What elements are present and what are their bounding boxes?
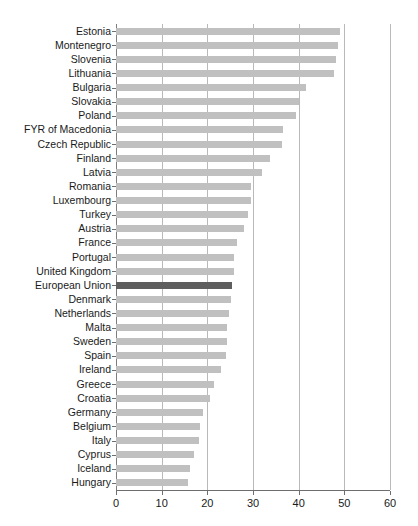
bar-row <box>116 310 390 317</box>
bar-row <box>116 84 390 91</box>
y-axis-label: Slovenia <box>0 54 111 65</box>
gridline-60 <box>390 24 391 490</box>
bar-latvia <box>116 169 262 176</box>
y-axis-tick <box>112 412 116 413</box>
y-axis-tick <box>112 455 116 456</box>
y-axis-tick <box>112 201 116 202</box>
y-axis-label: France <box>0 237 111 248</box>
bar-row <box>116 282 390 289</box>
bar-row <box>116 423 390 430</box>
y-axis-label: Poland <box>0 110 111 121</box>
bar-czech-republic <box>116 141 282 148</box>
bar-row <box>116 211 390 218</box>
y-axis-label: Bulgaria <box>0 82 111 93</box>
bar-ireland <box>116 366 221 373</box>
y-axis-label: Latvia <box>0 167 111 178</box>
y-axis-tick <box>112 426 116 427</box>
bar-row <box>116 254 390 261</box>
bar-denmark <box>116 296 231 303</box>
bar-montenegro <box>116 42 338 49</box>
bar-turkey <box>116 211 248 218</box>
bar-malta <box>116 324 227 331</box>
bar-estonia <box>116 28 340 35</box>
y-axis-tick <box>112 257 116 258</box>
bar-italy <box>116 437 199 444</box>
bar-netherlands <box>116 310 229 317</box>
y-axis-label: Cyprus <box>0 449 111 460</box>
y-axis-label: Spain <box>0 350 111 361</box>
bar-row <box>116 98 390 105</box>
bar-row <box>116 126 390 133</box>
bar-row <box>116 70 390 77</box>
y-axis-label: Austria <box>0 223 111 234</box>
bar-chart: EstoniaMontenegroSloveniaLithuaniaBulgar… <box>0 0 418 526</box>
bar-row <box>116 28 390 35</box>
bar-row <box>116 437 390 444</box>
y-axis-labels: EstoniaMontenegroSloveniaLithuaniaBulgar… <box>0 24 111 490</box>
bar-row <box>116 183 390 190</box>
y-axis-label: Montenegro <box>0 40 111 51</box>
y-axis-tick <box>112 313 116 314</box>
y-axis-tick <box>112 328 116 329</box>
y-axis-tick <box>112 116 116 117</box>
bar-row <box>116 141 390 148</box>
x-axis-tick-label: 10 <box>147 497 177 510</box>
bar-austria <box>116 225 244 232</box>
x-axis-tick-label: 0 <box>101 497 131 510</box>
bar-row <box>116 324 390 331</box>
y-axis-label: Belgium <box>0 421 111 432</box>
y-axis-label: European Union <box>0 280 111 291</box>
x-axis-tick <box>116 491 117 495</box>
y-axis-tick <box>112 88 116 89</box>
x-axis-tick <box>390 491 391 495</box>
x-axis-tick <box>207 491 208 495</box>
x-axis-tick <box>299 491 300 495</box>
bar-portugal <box>116 254 234 261</box>
bar-row <box>116 56 390 63</box>
bar-romania <box>116 183 251 190</box>
x-axis-tick-label: 40 <box>284 497 314 510</box>
y-axis-tick <box>112 342 116 343</box>
bar-row <box>116 296 390 303</box>
bar-united-kingdom <box>116 268 234 275</box>
bar-row <box>116 338 390 345</box>
y-axis-label: Estonia <box>0 26 111 37</box>
y-axis-label: Croatia <box>0 393 111 404</box>
bar-row <box>116 225 390 232</box>
y-axis-label: Italy <box>0 435 111 446</box>
y-axis-tick <box>112 469 116 470</box>
bar-luxembourg <box>116 197 251 204</box>
x-axis-tick-label: 20 <box>192 497 222 510</box>
y-axis-tick <box>112 370 116 371</box>
y-axis-tick <box>112 31 116 32</box>
y-axis-label: Finland <box>0 153 111 164</box>
y-axis-tick <box>112 186 116 187</box>
y-axis-tick <box>112 102 116 103</box>
bar-greece <box>116 381 214 388</box>
bar-row <box>116 352 390 359</box>
bar-poland <box>116 112 296 119</box>
y-axis-label: United Kingdom <box>0 266 111 277</box>
bar-european-union <box>116 282 232 289</box>
bar-row <box>116 169 390 176</box>
y-axis-label: Hungary <box>0 477 111 488</box>
y-axis-label: Germany <box>0 407 111 418</box>
y-axis-label: Czech Republic <box>0 139 111 150</box>
bar-germany <box>116 409 203 416</box>
y-axis-label: Luxembourg <box>0 195 111 206</box>
y-axis-tick <box>112 144 116 145</box>
bar-belgium <box>116 423 200 430</box>
bar-cyprus <box>116 451 194 458</box>
y-axis-tick <box>112 229 116 230</box>
x-axis-tick-label: 50 <box>329 497 359 510</box>
y-axis-tick <box>112 130 116 131</box>
y-axis-tick <box>112 215 116 216</box>
y-axis-tick <box>112 243 116 244</box>
y-axis-tick <box>112 483 116 484</box>
bar-bulgaria <box>116 84 306 91</box>
bar-row <box>116 197 390 204</box>
y-axis-tick <box>112 299 116 300</box>
y-axis-tick <box>112 45 116 46</box>
y-axis-label: Malta <box>0 322 111 333</box>
bar-fyr-of-macedonia <box>116 126 283 133</box>
